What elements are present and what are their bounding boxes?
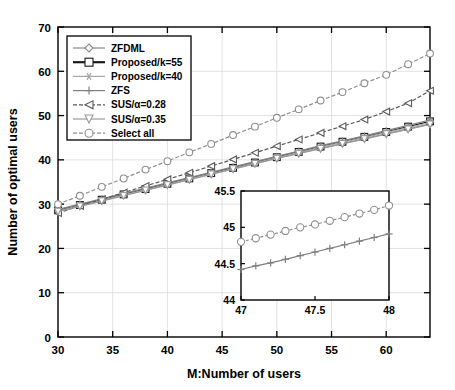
- x-tick-label: 50: [270, 344, 283, 356]
- x-tick-label: 55: [325, 344, 338, 356]
- square-icon: [85, 58, 93, 66]
- inset-x-tick-label: 48: [383, 304, 395, 316]
- x-tick-label: 45: [216, 344, 229, 356]
- legend-label: ZFS: [111, 85, 130, 96]
- x-tick-label: 40: [161, 344, 174, 356]
- inset-axes[interactable]: 4747.548 4444.54545.5: [215, 185, 395, 316]
- legend-label: SUS/α=0.28: [111, 99, 166, 110]
- inset-x-tick-label: 47.5: [305, 304, 326, 316]
- inset-x-tick-label: 47: [235, 304, 247, 316]
- inset-y-tick-label: 45: [223, 221, 235, 233]
- x-tick-label: 60: [380, 344, 393, 356]
- y-tick-label: 10: [38, 287, 51, 299]
- chart-legend[interactable]: ZFDMLProposed/k=55Proposed/k=40ZFSSUS/α=…: [67, 36, 191, 140]
- y-tick-label: 0: [45, 332, 51, 344]
- x-tick-label: 35: [106, 344, 119, 356]
- inset-y-tick-label: 45.5: [215, 185, 236, 197]
- circle-icon: [85, 129, 93, 137]
- inset-frame: [241, 191, 389, 300]
- x-axis-label: M:Number of users: [187, 367, 301, 381]
- x-tick-label: 30: [52, 344, 65, 356]
- legend-label: SUS/α=0.35: [111, 114, 166, 125]
- y-tick-label: 50: [38, 110, 51, 122]
- y-tick-label: 70: [38, 22, 51, 34]
- chart-figure: 30354045505560 010203040506070 M:Number …: [0, 0, 455, 390]
- inset-y-tick-label: 44.5: [215, 258, 236, 270]
- y-tick-label: 60: [38, 66, 51, 78]
- legend-item-1[interactable]: Proposed/k=55: [73, 57, 183, 68]
- inset-y-tick-label: 44: [223, 294, 235, 306]
- y-axis-label: Number of optimal users: [6, 108, 20, 255]
- legend-label: Proposed/k=40: [111, 71, 183, 82]
- y-tick-label: 30: [38, 199, 51, 211]
- legend-label: Select all: [111, 128, 155, 139]
- y-tick-label: 20: [38, 243, 51, 255]
- legend-label: ZFDML: [111, 43, 145, 54]
- legend-label: Proposed/k=55: [111, 57, 183, 68]
- line-chart: 30354045505560 010203040506070 M:Number …: [0, 0, 455, 390]
- y-tick-label: 40: [38, 154, 51, 166]
